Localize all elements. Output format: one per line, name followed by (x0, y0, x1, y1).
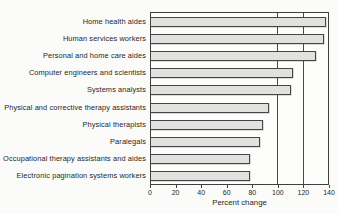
tick-label: 40 (197, 188, 205, 197)
bar-row (150, 154, 329, 164)
bar-row (150, 68, 329, 78)
category-label: Occupational therapy assistants and aide… (0, 154, 146, 164)
bar-row (150, 103, 329, 113)
bar (150, 85, 291, 95)
bar (150, 120, 263, 130)
bar-row (150, 17, 329, 27)
tick-label: 100 (272, 188, 284, 197)
bar (150, 34, 324, 44)
bar (150, 171, 250, 181)
bar (150, 17, 326, 27)
tick-label: 80 (248, 188, 256, 197)
bars-area (150, 17, 329, 181)
bar-row (150, 85, 329, 95)
x-axis-title: Percent change (150, 198, 329, 207)
category-label: Personal and home care aides (0, 51, 146, 61)
category-label: Physical therapists (0, 120, 146, 130)
bar (150, 137, 260, 147)
bar (150, 51, 316, 61)
tick-label: 120 (298, 188, 310, 197)
tick-label: 140 (323, 188, 335, 197)
bar-row (150, 51, 329, 61)
bar-row (150, 34, 329, 44)
bar-row (150, 171, 329, 181)
category-label: Paralegals (0, 137, 146, 147)
bar (150, 154, 250, 164)
tick-label: 20 (172, 188, 180, 197)
bar-row (150, 137, 329, 147)
bar-chart-figure: Home health aidesHuman services workersP… (0, 0, 337, 214)
category-label: Physical and corrective therapy assistan… (0, 103, 146, 113)
category-label: Home health aides (0, 17, 146, 27)
category-label: Computer engineers and scientists (0, 68, 146, 78)
tick-label: 0 (148, 188, 152, 197)
category-label: Human services workers (0, 34, 146, 44)
bar (150, 68, 293, 78)
labels-column: Home health aidesHuman services workersP… (0, 17, 146, 181)
bar-row (150, 120, 329, 130)
x-axis-ticklabels: 020406080100120140 (150, 188, 329, 197)
category-label: Systems analysts (0, 85, 146, 95)
tick-label: 60 (223, 188, 231, 197)
category-label: Electronic pagination systems workers (0, 171, 146, 181)
bar (150, 103, 269, 113)
